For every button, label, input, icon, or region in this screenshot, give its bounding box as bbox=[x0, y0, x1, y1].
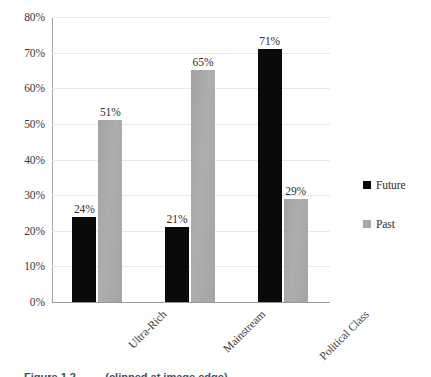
bar-value-label: 29% bbox=[285, 185, 306, 197]
x-axis-category-label: Political Class bbox=[317, 308, 371, 362]
x-axis-category-label: Mainstream bbox=[221, 308, 268, 355]
y-axis-tick-label: 70% bbox=[24, 47, 45, 59]
plot-area: 80%70%60%50%40%30%20%10%0%24%51%21%65%71… bbox=[52, 17, 330, 302]
bar-past-political-class: 29% bbox=[284, 199, 308, 302]
bar-value-label: 21% bbox=[167, 213, 188, 225]
bar-future-political-class: 71% bbox=[258, 49, 282, 302]
bar-past-mainstream: 65% bbox=[191, 70, 215, 302]
y-axis-tick-label: 0% bbox=[30, 296, 45, 308]
gridline bbox=[52, 53, 330, 54]
y-axis-tick-label: 10% bbox=[24, 260, 45, 272]
y-axis-tick-label: 60% bbox=[24, 82, 45, 94]
bar-value-label: 24% bbox=[74, 203, 95, 215]
y-axis-tick-label: 30% bbox=[24, 189, 45, 201]
figure-caption: Figure 1.2 — ... (clipped at image edge) bbox=[24, 371, 424, 377]
bar-future-mainstream: 21% bbox=[165, 227, 189, 302]
y-axis-tick-label: 40% bbox=[24, 154, 45, 166]
gridline bbox=[52, 17, 330, 18]
chart-legend: FuturePast bbox=[363, 178, 429, 256]
bar-future-ultra-rich: 24% bbox=[72, 217, 96, 303]
y-axis-tick-label: 20% bbox=[24, 225, 45, 237]
legend-label: Future bbox=[376, 179, 405, 191]
legend-swatch-icon bbox=[363, 220, 371, 228]
bar-past-ultra-rich: 51% bbox=[98, 120, 122, 302]
legend-item: Past bbox=[363, 217, 429, 231]
legend-item: Future bbox=[363, 178, 429, 192]
bar-value-label: 65% bbox=[193, 56, 214, 68]
y-axis-tick-label: 80% bbox=[24, 11, 45, 23]
y-axis-tick-label: 50% bbox=[24, 118, 45, 130]
legend-label: Past bbox=[376, 218, 395, 230]
legend-swatch-icon bbox=[363, 181, 371, 189]
bar-value-label: 71% bbox=[259, 35, 280, 47]
bar-value-label: 51% bbox=[100, 106, 121, 118]
x-axis-category-label: Ultra-Rich bbox=[126, 308, 169, 351]
bar-chart-figure: 80%70%60%50%40%30%20%10%0%24%51%21%65%71… bbox=[0, 0, 431, 377]
axis-baseline bbox=[52, 302, 330, 303]
